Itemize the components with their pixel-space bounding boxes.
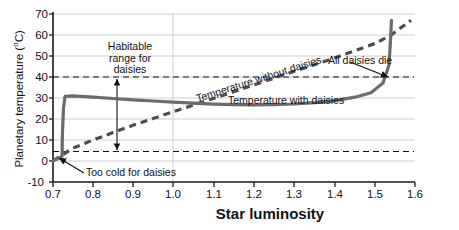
chart-figure: Planetary temperature (oC) 70 60 50 40 3… [0,0,459,230]
annotation-habitable-range: Habitable range for daisies [95,41,165,76]
too-cold-arrow [59,158,84,173]
annotation-temperature-with-daisies: Temperature with daisies [228,95,344,107]
plot-svg [0,0,459,230]
annotation-too-cold-for-daisies: Too cold for daisies [86,167,176,179]
annotation-all-daisies-die: All daisies die [328,55,392,67]
